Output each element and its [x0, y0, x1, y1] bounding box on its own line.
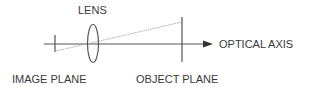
light-ray	[56, 22, 182, 51]
optics-diagram: LENS OPTICAL AXIS IMAGE PLANE OBJECT PLA…	[0, 0, 317, 98]
optical-axis-label: OPTICAL AXIS	[219, 38, 293, 50]
object-plane-label: OBJECT PLANE	[136, 73, 218, 85]
optical-axis	[44, 41, 213, 48]
arrowhead-icon	[203, 41, 213, 48]
image-plane-label: IMAGE PLANE	[12, 73, 87, 85]
lens-label: LENS	[78, 4, 107, 16]
